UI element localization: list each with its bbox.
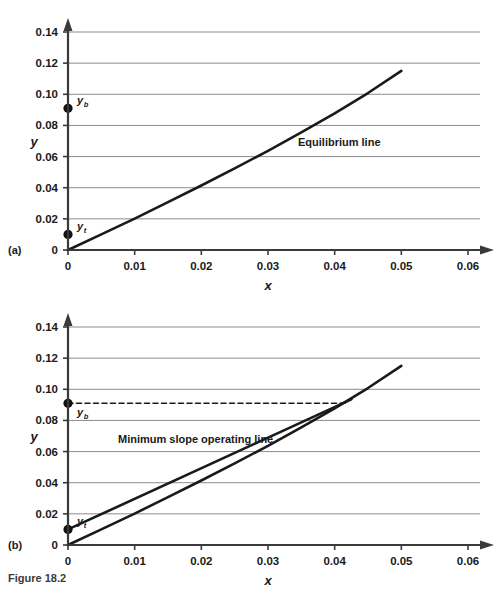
gridlines bbox=[68, 327, 480, 514]
y-tick-label: 0.06 bbox=[36, 151, 58, 163]
chart-panel-b: (b) 00.010.020.030.040.050.06 00.020.040… bbox=[0, 295, 502, 589]
gridlines bbox=[68, 32, 480, 219]
panel-b-plot: 00.010.020.030.040.050.06 00.020.040.060… bbox=[0, 295, 502, 589]
series-line bbox=[68, 71, 401, 250]
x-axis-arrowhead bbox=[480, 246, 494, 255]
x-tick-label: 0.01 bbox=[123, 555, 146, 567]
point-label-y_b: yb bbox=[76, 406, 89, 421]
data-series bbox=[68, 71, 401, 250]
figure-caption: Figure 18.2 bbox=[8, 572, 66, 589]
x-tick-label: 0.02 bbox=[190, 555, 212, 567]
y-tick-label: 0.02 bbox=[36, 213, 58, 225]
x-tick-label: 0.02 bbox=[190, 260, 212, 272]
x-tick-label: 0 bbox=[65, 260, 71, 272]
x-tick-label: 0.03 bbox=[257, 555, 279, 567]
minimum-slope-operating-line-label: Minimum slope operating line bbox=[118, 433, 273, 445]
y-tick-label: 0.04 bbox=[36, 182, 59, 194]
y-tick-label: 0.10 bbox=[36, 383, 58, 395]
series-line bbox=[68, 366, 401, 545]
x-axis-label: x bbox=[263, 278, 272, 293]
y-tick-label: 0.02 bbox=[36, 508, 58, 520]
x-tick-label: 0.06 bbox=[457, 555, 479, 567]
y-axis-arrowhead bbox=[64, 18, 73, 31]
y-tick-label: 0.12 bbox=[36, 57, 58, 69]
x-tick-label: 0 bbox=[65, 555, 71, 567]
chart-panel-a: (a) 00.010.020.030.040.050.06 00.020.040… bbox=[0, 0, 502, 294]
x-tick-label: 0.06 bbox=[457, 260, 479, 272]
series-line bbox=[68, 399, 351, 529]
y-tick-label: 0.14 bbox=[36, 26, 59, 38]
x-axis-arrowhead bbox=[480, 541, 494, 550]
y-tick-label: 0.12 bbox=[36, 352, 58, 364]
data-series bbox=[68, 366, 401, 545]
x-tick-label: 0.04 bbox=[323, 555, 346, 567]
y-tick-label: 0.10 bbox=[36, 88, 58, 100]
y-tick-label: 0.06 bbox=[36, 446, 58, 458]
y-tick-label: 0.14 bbox=[36, 321, 59, 333]
y-tick-label: 0 bbox=[52, 539, 58, 551]
x-tick-label: 0.04 bbox=[323, 260, 346, 272]
y-tick-label: 0.04 bbox=[36, 477, 59, 489]
x-tick-label: 0.03 bbox=[257, 260, 279, 272]
y-axis-label: y bbox=[29, 429, 38, 444]
panel-a-plot: 00.010.020.030.040.050.06 00.020.040.060… bbox=[0, 0, 502, 294]
y-axis-label: y bbox=[29, 134, 38, 149]
equilibrium-line-label: Equilibrium line bbox=[298, 136, 381, 148]
point-label-y_b: yb bbox=[76, 94, 89, 109]
y-tick-label: 0.08 bbox=[36, 119, 59, 131]
x-axis-tick-labels: 00.010.020.030.040.050.06 bbox=[65, 260, 479, 272]
point-label-y_t: yt bbox=[76, 515, 87, 530]
annotations: Minimum slope operating line bbox=[118, 433, 273, 445]
x-tick-label: 0.05 bbox=[390, 555, 413, 567]
x-tick-label: 0.05 bbox=[390, 260, 413, 272]
x-axis-tick-labels: 00.010.020.030.040.050.06 bbox=[65, 555, 479, 567]
y-axis-tick-labels: 00.020.040.060.080.100.120.14 bbox=[36, 321, 59, 551]
x-axis-label: x bbox=[263, 573, 272, 588]
y-tick-label: 0 bbox=[52, 244, 58, 256]
point-label-y_t: yt bbox=[76, 220, 87, 235]
y-axis-tick-labels: 00.020.040.060.080.100.120.14 bbox=[36, 26, 59, 256]
x-tick-label: 0.01 bbox=[123, 260, 146, 272]
annotations: Equilibrium line bbox=[298, 136, 381, 148]
y-tick-label: 0.08 bbox=[36, 414, 59, 426]
y-axis-arrowhead bbox=[64, 313, 73, 326]
